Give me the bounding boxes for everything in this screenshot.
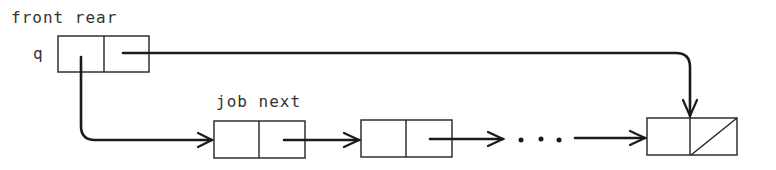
ellipsis-dots — [519, 137, 562, 143]
ellipsis-dot — [519, 138, 524, 143]
q-variable-label: q — [33, 44, 44, 63]
nil-pointer-slash-icon — [691, 118, 737, 155]
queue-linked-list-diagram: front rear q job next — [0, 0, 776, 170]
front-rear-label: front rear — [11, 8, 117, 27]
node-last-box — [647, 118, 737, 155]
rear-pointer-arrow — [123, 53, 690, 116]
front-pointer-arrow — [81, 57, 212, 140]
list-node-last — [647, 118, 737, 155]
job-next-label: job next — [216, 92, 301, 111]
ellipsis-dot — [539, 137, 544, 142]
ellipsis-dot — [557, 138, 562, 143]
